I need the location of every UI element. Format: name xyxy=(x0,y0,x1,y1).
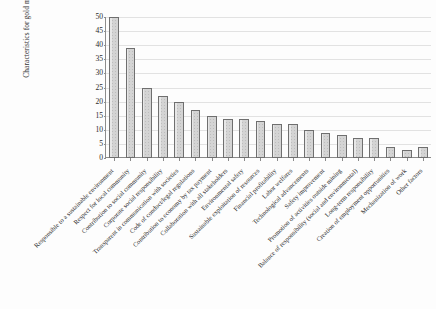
y-axis-tick-mark xyxy=(104,45,106,46)
y-axis-tick-mark xyxy=(104,88,106,89)
x-axis-tick-mark xyxy=(358,158,359,161)
x-axis-tick-mark xyxy=(325,158,326,161)
y-axis-tick-mark xyxy=(104,158,106,159)
x-axis-tick-mark xyxy=(163,158,164,161)
x-axis-tick-mark xyxy=(423,158,424,161)
x-axis-tick-mark xyxy=(260,158,261,161)
x-axis-tick-mark xyxy=(114,158,115,161)
x-axis-tick-mark xyxy=(195,158,196,161)
x-axis-tick-mark xyxy=(342,158,343,161)
x-axis-tick-mark xyxy=(293,158,294,161)
y-axis-tick-mark xyxy=(104,31,106,32)
x-axis-tick-mark xyxy=(179,158,180,161)
x-axis-tick-mark xyxy=(407,158,408,161)
y-axis-tick-mark xyxy=(104,73,106,74)
x-axis-tick-mark xyxy=(147,158,148,161)
y-axis-tick-mark xyxy=(104,17,106,18)
x-axis-tick-mark xyxy=(228,158,229,161)
y-axis-tick-mark xyxy=(104,130,106,131)
bar-chart-figure: Characteristics for gold mining, % 05101… xyxy=(0,0,436,309)
x-axis-tick-mark xyxy=(390,158,391,161)
x-axis-tick-mark xyxy=(244,158,245,161)
y-axis-tick-mark xyxy=(104,102,106,103)
x-axis-tick-mark xyxy=(374,158,375,161)
y-axis-tick-mark xyxy=(104,59,106,60)
y-axis-tick-mark xyxy=(104,116,106,117)
x-axis-category-labels: Responsible to a sustainable environment… xyxy=(0,0,436,309)
x-axis-tick-mark xyxy=(277,158,278,161)
x-axis-tick-mark xyxy=(130,158,131,161)
y-axis-tick-mark xyxy=(104,144,106,145)
x-axis-tick-mark xyxy=(212,158,213,161)
x-axis-tick-mark xyxy=(309,158,310,161)
